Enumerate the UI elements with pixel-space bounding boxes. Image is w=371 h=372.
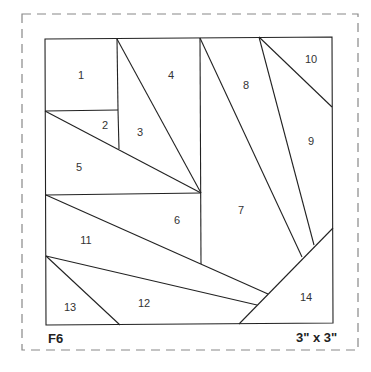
- piece-label-12: 12: [138, 297, 150, 309]
- piece-lines: [45, 37, 333, 325]
- piece-label-14: 14: [300, 291, 312, 303]
- piece-label-4: 4: [168, 69, 174, 81]
- piece-label-3: 3: [137, 126, 143, 138]
- pattern-size: 3" x 3": [296, 330, 337, 345]
- piece-label-1: 1: [78, 69, 84, 81]
- piece-label-8: 8: [243, 79, 249, 91]
- piece-label-2: 2: [102, 119, 108, 131]
- piece-label-7: 7: [238, 204, 244, 216]
- piece-label-5: 5: [76, 161, 82, 173]
- piece-label-13: 13: [64, 301, 76, 313]
- piece-label-6: 6: [174, 214, 180, 226]
- pattern-id: F6: [48, 331, 63, 346]
- piece-label-9: 9: [308, 135, 314, 147]
- piece-label-10: 10: [305, 53, 317, 65]
- piece-label-11: 11: [80, 234, 91, 246]
